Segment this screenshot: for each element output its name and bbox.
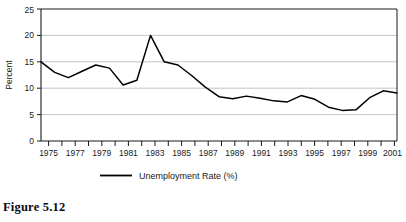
figure-container: 0 5 10 15 20 25 Percent	[0, 0, 406, 222]
x-tick-label-1987: 1987	[199, 148, 218, 158]
x-tick-label-1993: 1993	[279, 148, 298, 158]
x-tick-label-1999: 1999	[358, 148, 377, 158]
x-tick-label-1983: 1983	[146, 148, 165, 158]
y-tick-label-15: 15	[25, 57, 35, 67]
unemployment-rate-line-chart: 0 5 10 15 20 25 Percent	[0, 0, 406, 196]
y-tick-label-20: 20	[25, 30, 35, 40]
x-tick-label-1979: 1979	[92, 148, 111, 158]
chart-area: 0 5 10 15 20 25 Percent	[0, 0, 406, 196]
x-tick-label-1975: 1975	[39, 148, 58, 158]
x-axis-ticks	[49, 141, 395, 146]
legend: Unemployment Rate (%)	[100, 171, 238, 181]
x-tick-label-1989: 1989	[225, 148, 244, 158]
x-tick-label-1985: 1985	[172, 148, 191, 158]
y-tick-label-25: 25	[25, 5, 35, 15]
x-tick-label-1981: 1981	[119, 148, 138, 158]
y-tick-label-10: 10	[25, 83, 35, 93]
legend-label-unemployment-rate: Unemployment Rate (%)	[139, 171, 238, 181]
figure-caption: Figure 5.12	[3, 200, 65, 215]
x-tick-label-1991: 1991	[252, 148, 271, 158]
y-tick-label-0: 0	[29, 136, 34, 146]
x-tick-label-1977: 1977	[66, 148, 85, 158]
y-axis-ticks	[37, 9, 41, 141]
y-axis-title: Percent	[4, 60, 14, 90]
y-tick-label-5: 5	[29, 110, 34, 120]
x-tick-label-1995: 1995	[305, 148, 324, 158]
x-tick-label-2001: 2001	[383, 148, 402, 158]
plot-background	[41, 9, 397, 141]
x-tick-label-1997: 1997	[332, 148, 351, 158]
